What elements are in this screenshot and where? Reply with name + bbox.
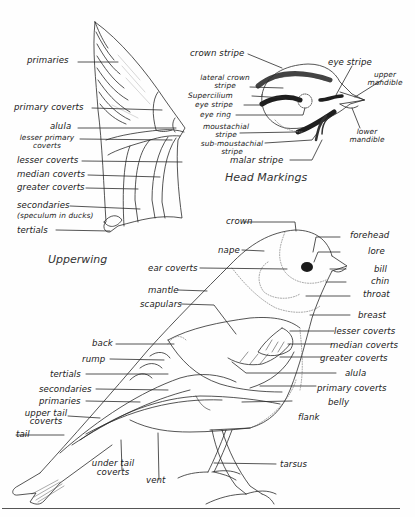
title-head-markings: Head Markings [225,171,307,184]
label-bird-ear-coverts: ear coverts [148,264,198,273]
label-bird-mantle: mantle [148,286,179,295]
label-bird-alula: alula [345,369,366,378]
label-bird-primaries: primaries [39,397,81,406]
label-bird-under-tail-coverts: under tail coverts [88,459,138,477]
label-bird-secondaries: secondaries [39,385,92,394]
label-head-crown-stripe: crown stripe [190,49,244,58]
label-line-2: mandible [367,78,402,87]
label-line-2: stripe [214,81,236,90]
label-bird-tertials: tertials [50,370,81,379]
label-bird-nape: nape [218,246,240,255]
label-upperwing-secondaries: secondaries [17,201,70,210]
label-bird-crown: crown [226,217,253,226]
label-head-moustachial-stripe: moustachial stripe [196,123,256,138]
label-upperwing-lesser-primary-coverts: lesser primary coverts [14,134,80,149]
bottom-divider [2,508,400,509]
label-head-eye-stripe-left: eye stripe [195,101,233,109]
label-upperwing-greater-coverts: greater coverts [17,183,85,192]
label-bird-scapulars: scapulars [140,300,182,309]
label-head-malar-stripe: malar stripe [230,156,283,165]
label-bird-rump: rump [82,355,105,364]
label-head-eye-stripe-top: eye stripe [328,58,372,67]
label-bird-primary-coverts: primary coverts [317,384,387,393]
label-bird-median-coverts: median coverts [330,341,398,350]
label-bird-upper-tail-coverts: upper tail coverts [22,409,70,425]
label-line-2: coverts [97,467,129,477]
label-head-eye-ring: eye ring [200,111,231,119]
label-bird-vent: vent [146,476,166,485]
label-upperwing-median-coverts: median coverts [17,170,85,179]
label-bird-belly: belly [328,398,349,407]
label-bird-tail: tail [16,430,30,439]
label-head-supercilium: Supercilium [188,92,233,100]
label-line-2: coverts [30,416,62,426]
label-line-2: mandible [349,135,384,144]
label-bird-forehead: forehead [350,231,389,240]
label-upperwing-alula: alula [50,122,71,131]
label-bird-chin: chin [371,277,389,286]
upperwing-drawing [56,22,185,232]
label-upperwing-speculum-note: (speculum in ducks) [17,212,93,220]
label-bird-flank: flank [298,413,320,422]
label-line-2: stripe [215,130,237,139]
label-upperwing-tertials: tertials [17,226,48,235]
label-bird-bill: bill [374,265,387,274]
label-bird-lore: lore [368,247,385,256]
label-head-lateral-crown-stripe: lateral crown stripe [190,74,260,89]
label-bird-breast: breast [358,311,386,320]
label-bird-tarsus: tarsus [280,460,307,469]
label-bird-back: back [92,339,113,348]
label-bird-throat: throat [363,290,390,299]
label-head-upper-mandible: upper mandible [362,71,408,86]
label-bird-greater-coverts: greater coverts [320,354,388,363]
label-upperwing-primaries: primaries [27,56,69,65]
label-upperwing-primary-coverts: primary coverts [14,103,84,112]
label-upperwing-lesser-coverts: lesser coverts [17,156,78,165]
title-upperwing: Upperwing [48,253,107,266]
label-head-lower-mandible: lower mandible [344,128,390,143]
label-bird-lesser-coverts: lesser coverts [334,327,395,336]
label-head-sub-moustachial-stripe: sub-moustachial stripe [196,140,268,155]
label-line-2: coverts [33,141,61,150]
